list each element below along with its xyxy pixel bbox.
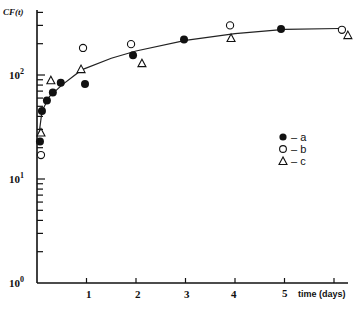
x-tick-label-2: 2	[135, 288, 141, 300]
y-tick-label-100: 102	[9, 67, 24, 81]
legend-marker-a-icon	[279, 133, 286, 140]
legend: – a – b – c	[279, 131, 307, 167]
data-point-b	[37, 151, 44, 158]
y-tick-label-1: 100	[9, 275, 24, 289]
data-point-a	[81, 80, 89, 88]
data-point-a	[36, 137, 44, 145]
legend-label-c: – c	[291, 155, 306, 167]
data-point-a	[49, 88, 57, 96]
x-tick-label-5: 5	[282, 287, 288, 299]
y-tick-label-10: 101	[9, 171, 24, 185]
data-point-b	[226, 22, 233, 29]
data-point-a	[277, 25, 285, 33]
data-point-b	[338, 26, 345, 33]
y-axis-label: CF(t)	[3, 7, 24, 17]
data-point-a	[38, 107, 46, 115]
data-point-a	[43, 96, 51, 104]
data-point-b	[127, 41, 134, 48]
x-tick-label-3: 3	[184, 288, 190, 300]
data-point-a	[129, 51, 137, 59]
legend-marker-b-icon	[280, 146, 287, 153]
data-point-c	[47, 76, 55, 84]
chart: CF(t) 100 101 102 1 2 3 4 5 time (days) …	[0, 0, 364, 312]
x-tick-label-1: 1	[86, 288, 92, 300]
data-point-a	[180, 35, 188, 43]
data-point-a	[57, 79, 65, 87]
legend-marker-c-icon	[279, 157, 287, 165]
legend-label-a: – a	[291, 131, 307, 143]
data-point-c	[138, 59, 146, 67]
legend-label-b: – b	[291, 143, 306, 155]
data-point-b	[79, 44, 86, 51]
x-axis-label: time (days)	[298, 289, 346, 299]
x-tick-label-4: 4	[231, 288, 237, 300]
